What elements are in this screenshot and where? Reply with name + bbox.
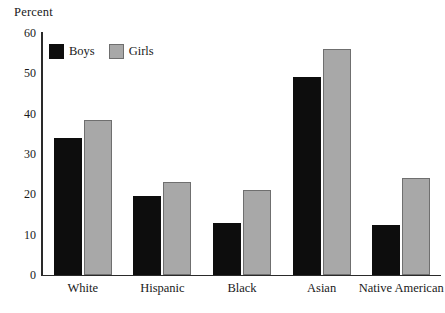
bar-boys-native-american [372, 225, 400, 275]
bar-boys-hispanic [133, 196, 161, 275]
x-axis-category-labels: WhiteHispanicBlackAsianNative American [43, 281, 441, 309]
legend-swatch-girls-icon [109, 44, 124, 59]
legend-label-boys: Boys [69, 44, 95, 59]
bar-girls-native-american [402, 178, 430, 275]
bar-girls-hispanic [163, 182, 191, 275]
x-axis-label-native-american: Native American [359, 281, 444, 296]
bar-boys-black [213, 223, 241, 275]
x-axis-label-white: White [68, 281, 99, 296]
legend-swatch-boys-icon [49, 44, 64, 59]
legend-item-girls: Girls [109, 44, 154, 59]
bar-girls-black [243, 190, 271, 275]
legend-label-girls: Girls [129, 44, 154, 59]
chart-legend: Boys Girls [49, 44, 154, 59]
y-axis-ticks: 0102030405060 [0, 0, 36, 313]
x-axis-label-black: Black [227, 281, 256, 296]
bar-chart: Percent 0102030405060 WhiteHispanicBlack… [0, 0, 445, 313]
y-axis-tick-label: 60 [6, 26, 36, 41]
y-axis-tick-label: 50 [6, 66, 36, 81]
y-axis-tick-label: 0 [6, 268, 36, 283]
y-axis-tick-label: 40 [6, 106, 36, 121]
legend-item-boys: Boys [49, 44, 95, 59]
x-axis-label-asian: Asian [307, 281, 336, 296]
bar-girls-asian [323, 49, 351, 275]
y-axis-tick-label: 30 [6, 147, 36, 162]
bar-boys-asian [293, 77, 321, 275]
bar-girls-white [84, 120, 112, 275]
x-axis-label-hispanic: Hispanic [140, 281, 184, 296]
bar-boys-white [54, 138, 82, 275]
y-axis-tick-label: 20 [6, 187, 36, 202]
y-axis-tick-label: 10 [6, 227, 36, 242]
